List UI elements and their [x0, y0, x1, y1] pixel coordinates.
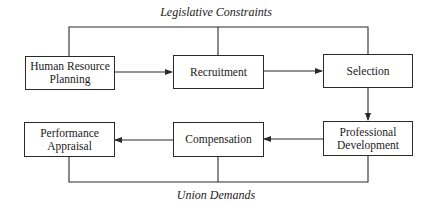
union-demands-label: Union Demands [177, 188, 255, 203]
node-label-line1: Human Resource [30, 60, 110, 72]
node-label: Recruitment [190, 66, 247, 79]
node-label-line2: Appraisal [47, 140, 92, 152]
node-professional-development: ProfessionalDevelopment [323, 121, 413, 156]
node-label-line2: Development [337, 139, 399, 151]
node-label: Compensation [185, 133, 251, 146]
node-label-line2: Planning [50, 73, 91, 85]
node-label-line1: Professional [340, 126, 397, 138]
node-selection: Selection [323, 54, 413, 88]
node-performance-appraisal: PerformanceAppraisal [24, 122, 115, 157]
connector-lines [0, 0, 432, 205]
node-label: Selection [347, 65, 390, 78]
node-compensation: Compensation [173, 122, 264, 157]
node-label-line1: Performance [40, 127, 99, 139]
node-recruitment: Recruitment [173, 55, 264, 89]
node-human-resource-planning: Human ResourcePlanning [25, 56, 115, 90]
